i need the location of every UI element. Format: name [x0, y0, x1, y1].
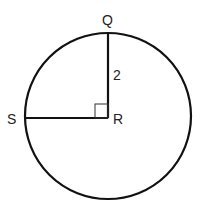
circle-diagram: Q 2 S R	[0, 0, 203, 207]
label-s: S	[7, 111, 16, 127]
label-rq-length: 2	[113, 67, 121, 83]
right-angle-marker	[95, 104, 108, 118]
label-q: Q	[102, 12, 113, 28]
label-r: R	[113, 111, 123, 127]
